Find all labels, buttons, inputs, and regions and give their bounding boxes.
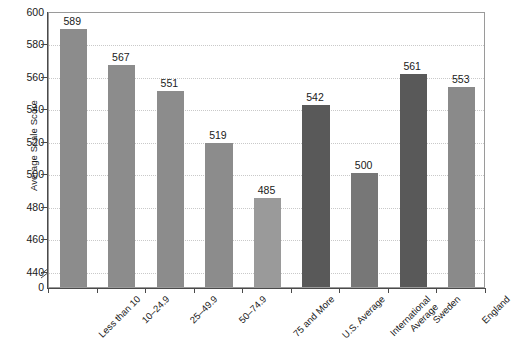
y-axis-tick-mark bbox=[41, 142, 48, 143]
x-axis-category-label-line: Less than 10 bbox=[97, 294, 143, 340]
x-axis-tick-mark bbox=[194, 288, 195, 293]
bar-value-label: 500 bbox=[355, 159, 373, 171]
y-axis-tick-label: 540 bbox=[14, 103, 44, 115]
x-axis-category-label: England bbox=[480, 294, 512, 326]
x-axis-tick-mark bbox=[242, 288, 243, 293]
x-axis-tick-mark bbox=[388, 288, 389, 293]
x-axis-category-label: 75 and More bbox=[291, 294, 336, 339]
bar-value-label: 567 bbox=[112, 51, 130, 63]
bar[interactable] bbox=[302, 105, 329, 287]
x-axis-tick-mark bbox=[291, 288, 292, 293]
bar[interactable] bbox=[254, 198, 281, 287]
y-axis-tick-mark bbox=[41, 109, 48, 110]
x-axis-category-label-line: 50–74.9 bbox=[237, 294, 269, 326]
x-axis-tick-mark bbox=[97, 288, 98, 293]
bar-value-label: 485 bbox=[258, 184, 276, 196]
bar[interactable] bbox=[157, 91, 184, 287]
y-axis-tick-mark bbox=[41, 77, 48, 78]
y-axis-tick-mark bbox=[41, 174, 48, 175]
bar[interactable] bbox=[108, 65, 135, 287]
bar[interactable] bbox=[448, 87, 475, 287]
x-axis-category-label-line: England bbox=[480, 294, 512, 326]
bar[interactable] bbox=[205, 143, 232, 287]
x-axis-category-label: 10–24.9 bbox=[140, 294, 172, 326]
bar-value-label: 589 bbox=[64, 15, 82, 27]
y-axis-tick-label: 460 bbox=[14, 233, 44, 245]
x-axis-tick-mark bbox=[145, 288, 146, 293]
bar[interactable] bbox=[400, 74, 427, 287]
bar-value-label: 519 bbox=[209, 129, 227, 141]
x-axis-category-label: U.S. Average bbox=[340, 294, 387, 341]
x-axis-category-label: 25–49.9 bbox=[188, 294, 220, 326]
y-axis-tick-label: 560 bbox=[14, 71, 44, 83]
x-axis-tick-mark bbox=[339, 288, 340, 293]
x-axis-tick-mark bbox=[485, 288, 486, 293]
y-axis-tick-label: 600 bbox=[14, 6, 44, 18]
y-axis-tick-labels: 440460480500520540560580600 bbox=[14, 0, 44, 360]
y-axis-tick-label: 500 bbox=[14, 168, 44, 180]
gridline bbox=[49, 45, 484, 46]
bar-value-label: 553 bbox=[452, 73, 470, 85]
x-axis-line bbox=[47, 288, 485, 289]
bar-value-label: 561 bbox=[403, 60, 421, 72]
y-axis-zero-label: 0 bbox=[14, 281, 44, 293]
bar-value-label: 542 bbox=[306, 91, 324, 103]
y-axis-tick-mark bbox=[41, 272, 48, 273]
y-axis-tick-label: 520 bbox=[14, 136, 44, 148]
y-axis-tick-mark bbox=[41, 239, 48, 240]
bar[interactable] bbox=[351, 173, 378, 287]
bar[interactable] bbox=[60, 29, 87, 287]
x-axis-tick-mark bbox=[436, 288, 437, 293]
x-axis-category-label-line: 75 and More bbox=[291, 294, 336, 339]
x-axis-tick-mark bbox=[48, 288, 49, 293]
y-axis-tick-mark bbox=[41, 207, 48, 208]
x-axis-category-label-line: U.S. Average bbox=[340, 294, 387, 341]
y-axis-tick-mark bbox=[41, 44, 48, 45]
y-axis-tick-label: 480 bbox=[14, 201, 44, 213]
bar-value-label: 551 bbox=[161, 77, 179, 89]
x-axis-category-label: Less than 10 bbox=[97, 294, 143, 340]
y-axis-tick-label: 580 bbox=[14, 38, 44, 50]
x-axis-category-label-line: 10–24.9 bbox=[140, 294, 172, 326]
x-axis-category-label-line: 25–49.9 bbox=[188, 294, 220, 326]
x-axis-category-label: 50–74.9 bbox=[237, 294, 269, 326]
